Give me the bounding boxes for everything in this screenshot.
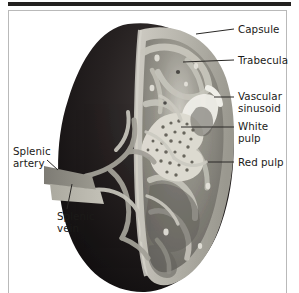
label-splenic-vein: Splenic vein [57, 211, 95, 234]
label-vascular-sinusoid: Vascular sinusoid [238, 91, 282, 114]
label-white-pulp: White pulp [238, 121, 268, 144]
label-trabecula: Trabecula [238, 55, 288, 67]
spleen-figure: Capsule Trabecula Vascular sinusoid Whit… [0, 0, 299, 293]
label-splenic-artery: Splenic artery [13, 146, 51, 169]
leader-capsule [196, 29, 234, 34]
label-red-pulp: Red pulp [238, 157, 284, 169]
label-capsule: Capsule [238, 24, 279, 36]
